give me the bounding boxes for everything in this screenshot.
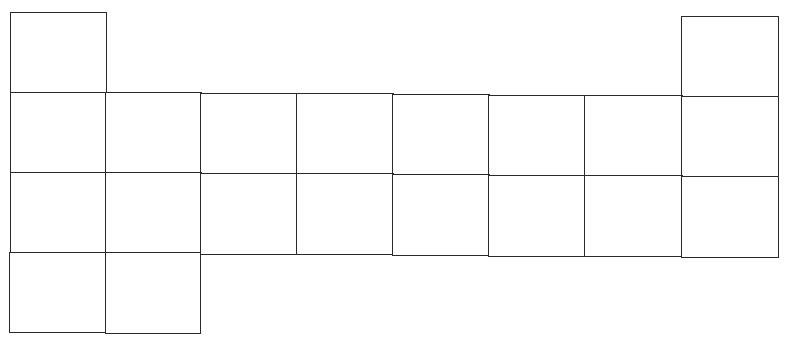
table-cell-r2-c7 xyxy=(584,95,683,177)
table-cell-r4-c1 xyxy=(9,252,107,333)
table-cell-r2-c4 xyxy=(296,93,394,175)
table-cell-r3-c2 xyxy=(105,172,202,254)
table-cell-r2-c2 xyxy=(105,92,202,174)
table-cell-r1-c1 xyxy=(10,12,107,94)
table-cell-r4-c2 xyxy=(105,252,201,334)
table-cell-r2-c3 xyxy=(200,93,298,175)
table-cell-r3-c8 xyxy=(681,176,779,258)
table-cell-r2-c8 xyxy=(681,96,779,178)
table-cell-r1-c8 xyxy=(681,16,779,98)
table-cell-r3-c1 xyxy=(10,172,107,254)
table-cell-r3-c3 xyxy=(200,173,298,255)
table-cell-r3-c5 xyxy=(392,174,490,256)
table-cell-r2-c6 xyxy=(488,95,586,177)
periodic-table-outline xyxy=(0,0,793,339)
table-cell-r2-c1 xyxy=(10,92,107,174)
table-cell-r3-c4 xyxy=(296,173,394,255)
table-cell-r3-c7 xyxy=(584,175,683,257)
table-cell-r2-c5 xyxy=(392,94,490,176)
table-cell-r3-c6 xyxy=(488,175,586,257)
